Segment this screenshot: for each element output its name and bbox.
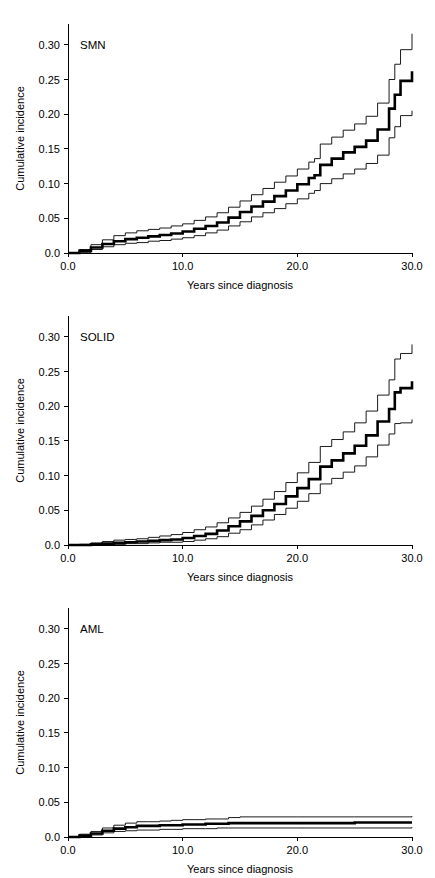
y-axis-title: Cumulative incidence [14, 86, 26, 191]
series-upper-95ci [68, 34, 412, 253]
cumulative-incidence-figure: 0.00.050.100.150.200.250.300.010.020.030… [0, 0, 435, 878]
y-tick-label: 0.15 [39, 143, 60, 155]
plot-solid: 0.00.050.100.150.200.250.300.010.020.030… [0, 292, 435, 585]
y-tick-label: 0.15 [39, 727, 60, 739]
panel-title: AML [80, 623, 104, 635]
x-tick-label: 0.0 [60, 552, 75, 564]
y-tick-label: 0.25 [39, 74, 60, 86]
y-tick-label: 0.20 [39, 108, 60, 120]
y-tick-label: 0.0 [45, 247, 60, 259]
y-axis-title: Cumulative incidence [14, 378, 26, 483]
x-tick-label: 0.0 [60, 260, 75, 272]
x-tick-label: 10.0 [172, 552, 193, 564]
series-estimate [68, 822, 412, 837]
y-tick-label: 0.05 [39, 796, 60, 808]
panel-solid: 0.00.050.100.150.200.250.300.010.020.030… [0, 292, 435, 585]
y-tick-label: 0.10 [39, 762, 60, 774]
y-tick-label: 0.25 [39, 658, 60, 670]
x-axis-title: Years since diagnosis [187, 863, 293, 875]
x-tick-label: 30.0 [401, 552, 422, 564]
y-tick-label: 0.05 [39, 504, 60, 516]
plot-aml: 0.00.050.100.150.200.250.300.010.020.030… [0, 584, 435, 877]
y-tick-label: 0.10 [39, 470, 60, 482]
y-axis-title: Cumulative incidence [14, 670, 26, 775]
x-tick-label: 0.0 [60, 844, 75, 856]
series-upper-95ci [68, 816, 412, 837]
panel-aml: 0.00.050.100.150.200.250.300.010.020.030… [0, 584, 435, 877]
y-tick-label: 0.30 [39, 623, 60, 635]
panel-smn: 0.00.050.100.150.200.250.300.010.020.030… [0, 0, 435, 293]
x-tick-label: 30.0 [401, 260, 422, 272]
y-tick-label: 0.0 [45, 539, 60, 551]
y-tick-label: 0.15 [39, 435, 60, 447]
x-axis-title: Years since diagnosis [187, 571, 293, 583]
y-tick-label: 0.20 [39, 692, 60, 704]
series-lower-95ci [68, 111, 412, 253]
y-tick-label: 0.20 [39, 400, 60, 412]
x-tick-label: 10.0 [172, 844, 193, 856]
y-tick-label: 0.25 [39, 366, 60, 378]
y-tick-label: 0.10 [39, 178, 60, 190]
plot-smn: 0.00.050.100.150.200.250.300.010.020.030… [0, 0, 435, 293]
x-tick-label: 20.0 [287, 260, 308, 272]
panel-title: SMN [80, 39, 106, 51]
y-tick-label: 0.0 [45, 831, 60, 843]
y-tick-label: 0.05 [39, 212, 60, 224]
series-estimate [68, 381, 412, 545]
y-tick-label: 0.30 [39, 331, 60, 343]
x-tick-label: 10.0 [172, 260, 193, 272]
x-tick-label: 20.0 [287, 844, 308, 856]
panel-title: SOLID [80, 331, 115, 343]
x-axis-title: Years since diagnosis [187, 279, 293, 291]
x-tick-label: 20.0 [287, 552, 308, 564]
x-tick-label: 30.0 [401, 844, 422, 856]
y-tick-label: 0.30 [39, 39, 60, 51]
